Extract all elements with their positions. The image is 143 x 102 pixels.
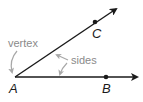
- side-ab-pointer-arrow-icon: [60, 63, 67, 74]
- vertex-pointer-arrow-icon: [11, 51, 17, 72]
- point-b: [104, 75, 109, 80]
- angle-diagram: A C B vertex sides: [0, 0, 143, 102]
- point-label-c: C: [92, 26, 102, 41]
- vertex-label-a: A: [8, 81, 18, 96]
- vertex-annotation: vertex: [8, 37, 38, 49]
- point-c: [93, 20, 98, 25]
- point-label-b: B: [102, 81, 111, 96]
- side-ac-pointer-arrow-icon: [57, 55, 68, 60]
- sides-annotation: sides: [71, 54, 97, 66]
